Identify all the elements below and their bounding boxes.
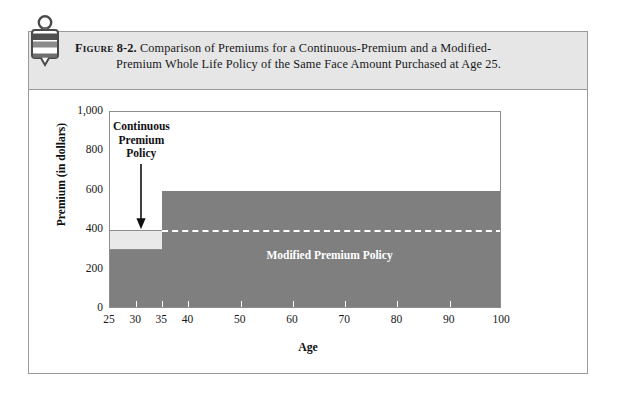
- down-arrow-icon: [133, 164, 149, 229]
- x-tick-mark: [188, 301, 189, 308]
- callout-line: Policy: [113, 147, 170, 161]
- x-tick-label: 70: [324, 313, 364, 325]
- x-tick-mark: [136, 301, 137, 308]
- figure-caption-text: Figure 8-2. Comparison of Premiums for a…: [75, 41, 575, 72]
- modified-premium-policy-label: Modified Premium Policy: [266, 249, 392, 261]
- x-tick-mark: [450, 301, 451, 308]
- x-tick-label: 60: [272, 313, 312, 325]
- plot-area: Modified Premium PolicyContinuousPremium…: [109, 111, 501, 308]
- premium-reference-dashed-line: [162, 230, 501, 232]
- x-tick-mark: [397, 301, 398, 308]
- caption-figure-word: Figure: [75, 41, 114, 55]
- figure-container: Figure 8-2. Comparison of Premiums for a…: [28, 31, 588, 374]
- y-tick-label: 800: [57, 143, 103, 155]
- y-tick-label: 1,000: [57, 104, 103, 116]
- y-tick-label: 200: [57, 262, 103, 274]
- chart-area: Premium (in dollars) 1,000 800 600 400 2…: [29, 90, 587, 374]
- x-tick-label: 90: [429, 313, 469, 325]
- x-tick-label: 80: [376, 313, 416, 325]
- x-tick-label: 40: [167, 313, 207, 325]
- x-tick-mark: [162, 301, 163, 308]
- x-tick-label: 100: [481, 313, 521, 325]
- continuous-premium-policy-callout: ContinuousPremiumPolicy: [113, 120, 170, 161]
- callout-line: Premium: [113, 134, 170, 148]
- x-tick-mark: [293, 301, 294, 308]
- x-tick-mark: [241, 301, 242, 308]
- caption-figure-number: 8-2.: [117, 41, 137, 55]
- caption-line-1: Comparison of Premiums for a Continuous-…: [140, 41, 491, 55]
- x-axis-title: Age: [29, 340, 587, 355]
- y-tick-label: 600: [57, 183, 103, 195]
- y-tick-label: 400: [57, 222, 103, 234]
- y-tick-label: 0: [57, 301, 103, 313]
- modified-premium-step: [110, 250, 162, 308]
- callout-line: Continuous: [113, 120, 170, 134]
- figure-caption-band: Figure 8-2. Comparison of Premiums for a…: [29, 32, 587, 90]
- continuous-premium-band: [110, 230, 162, 250]
- x-tick-mark: [345, 301, 346, 308]
- x-tick-label: 50: [220, 313, 260, 325]
- caption-line-2: Premium Whole Life Policy of the Same Fa…: [75, 57, 575, 73]
- figure-tag-icon: [23, 12, 67, 78]
